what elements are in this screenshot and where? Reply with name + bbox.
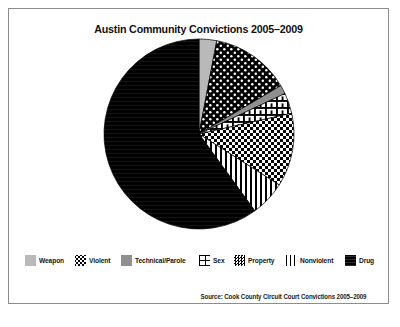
legend-label: Property bbox=[248, 256, 274, 265]
legend-label: Sex bbox=[213, 256, 225, 265]
pie-chart bbox=[100, 37, 300, 233]
legend-label: Nonviolent bbox=[300, 256, 333, 265]
sex-swatch-icon bbox=[199, 255, 210, 266]
drug-swatch-icon bbox=[345, 255, 356, 266]
nonviolent-swatch-icon bbox=[286, 255, 297, 266]
legend-item-sex[interactable]: Sex bbox=[199, 255, 226, 266]
legend-item-drug[interactable]: Drug bbox=[345, 255, 375, 266]
page-title: Austin Community Convictions 2005–2009 bbox=[22, 23, 374, 35]
chart-legend: Weapon Violent Technical/Parole Sex Prop… bbox=[25, 255, 375, 266]
violent-swatch-icon bbox=[75, 255, 86, 266]
legend-label: Weapon bbox=[39, 256, 64, 265]
legend-item-technical-parole[interactable]: Technical/Parole bbox=[121, 255, 190, 266]
legend-item-violent[interactable]: Violent bbox=[75, 255, 112, 266]
weapon-swatch-icon bbox=[25, 255, 36, 266]
legend-label: Violent bbox=[89, 256, 110, 265]
pie-chart-area bbox=[9, 37, 390, 237]
legend-item-nonviolent[interactable]: Nonviolent bbox=[286, 255, 336, 266]
property-swatch-icon bbox=[234, 255, 245, 266]
legend-label: Drug bbox=[359, 256, 374, 265]
technical-parole-swatch-icon bbox=[121, 255, 132, 266]
pie-slices bbox=[104, 39, 294, 229]
legend-label: Technical/Parole bbox=[135, 256, 186, 265]
legend-item-weapon[interactable]: Weapon bbox=[25, 255, 66, 266]
source-note: Source: Cook County Circuit Court Convic… bbox=[200, 293, 366, 300]
legend-item-property[interactable]: Property bbox=[234, 255, 277, 266]
figure-frame: Austin Community Convictions 2005–2009 bbox=[8, 8, 389, 304]
